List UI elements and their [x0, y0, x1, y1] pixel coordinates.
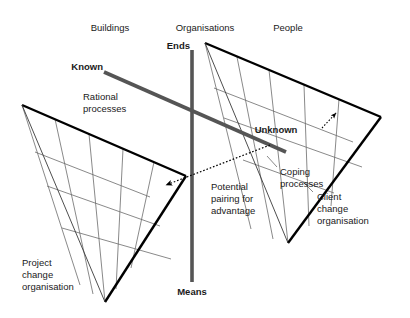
project-change-line-2: change	[22, 269, 53, 280]
column-header-people: People	[273, 22, 303, 33]
left-rib-4	[116, 149, 123, 289]
coping-processes-line-2: processes	[280, 178, 324, 189]
left-outline-top	[22, 105, 186, 176]
right-rib-4	[304, 85, 309, 226]
annotation-coping-processes: Coping processes	[280, 166, 324, 189]
rational-processes-line-1: Rational	[83, 91, 118, 102]
right-rib-3	[269, 70, 288, 243]
left-band-3	[62, 228, 171, 259]
potential-pairing-line-2: pairing for	[211, 193, 253, 204]
potential-pairing-line-1: Potential	[211, 181, 248, 192]
left-rib-2	[55, 119, 93, 294]
left-funnel-bands	[35, 152, 171, 259]
column-header-buildings: Buildings	[91, 22, 130, 33]
left-band-2	[47, 186, 160, 226]
diagram-canvas: Buildings Organisations People Ends Mean…	[0, 0, 410, 318]
unknown-label: Unknown	[255, 124, 298, 135]
left-rib-3	[89, 134, 105, 302]
annotation-potential-pairing: Potential pairing for advantage	[211, 181, 255, 216]
axis-label-ends: Ends	[167, 40, 190, 51]
project-change-line-1: Project	[22, 257, 52, 268]
client-change-line-1: Client	[317, 191, 342, 202]
known-unknown-line	[104, 72, 286, 152]
potential-pairing-line-3: advantage	[211, 205, 255, 216]
annotation-rational-processes: Rational processes	[83, 91, 127, 114]
axis-label-means: Means	[177, 286, 207, 297]
annotation-project-change-organisation: Project change organisation	[22, 257, 74, 292]
potential-pairing-arrow	[166, 145, 270, 185]
coping-processes-line-1: Coping	[280, 166, 310, 177]
unknown-pointer-arrow	[322, 113, 336, 128]
client-change-line-3: organisation	[317, 215, 369, 226]
right-rib-5	[331, 99, 339, 206]
ends-means-diagram: Buildings Organisations People Ends Mean…	[0, 0, 410, 318]
client-change-line-2: change	[317, 203, 348, 214]
left-rib-5	[131, 162, 154, 268]
known-label: Known	[71, 61, 103, 72]
column-header-organisations: Organisations	[176, 22, 235, 33]
annotation-client-change-organisation: Client change organisation	[317, 191, 369, 226]
project-change-line-3: organisation	[22, 281, 74, 292]
rational-processes-line-2: processes	[83, 103, 127, 114]
coping-leader-1	[267, 156, 277, 167]
